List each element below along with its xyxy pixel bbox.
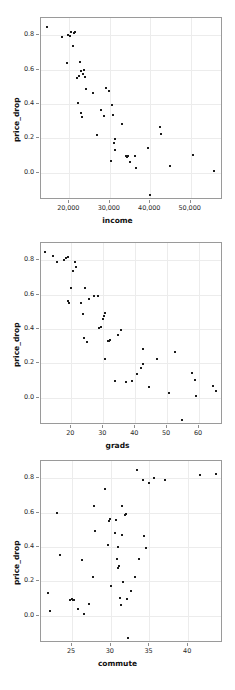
data-point [121,534,123,536]
data-point [130,590,132,592]
data-point [68,302,70,304]
data-point [117,334,119,336]
data-point [127,155,129,157]
data-point [174,351,176,353]
data-point [114,149,116,151]
x-axis-tick-label: 50,000 [179,204,201,212]
data-point [104,358,106,360]
data-point [142,479,144,481]
data-point [103,115,105,117]
data-point [103,315,105,317]
data-point [131,380,133,382]
x-axis-tick [149,200,150,203]
gridline-horizontal [41,581,221,582]
data-point [74,261,76,263]
gridline-horizontal [41,616,221,617]
data-point [215,473,217,475]
data-point [80,112,82,114]
gridline-horizontal [41,295,221,296]
data-point [96,134,98,136]
gridline-horizontal [41,363,221,364]
gridline-vertical [135,243,136,423]
data-point [74,31,76,33]
x-axis-tick [68,200,69,203]
data-point [122,581,124,583]
data-point [80,70,82,72]
data-point [114,380,116,382]
data-point [72,45,74,47]
data-point [119,597,121,599]
data-point [83,613,85,615]
data-point [49,610,51,612]
data-point [147,147,149,149]
gridline-horizontal [41,329,221,330]
data-point [88,298,90,300]
gridline-horizontal [41,260,221,261]
data-point [110,160,112,162]
x-axis-tick [71,643,72,646]
data-point [69,35,71,37]
data-point [56,261,58,263]
data-point [77,608,79,610]
y-axis-tick [36,477,39,478]
data-point [108,520,110,522]
x-axis-tick-label: 30,000 [98,204,120,212]
y-axis-tick [36,615,39,616]
data-point [125,513,127,515]
data-point [120,329,122,331]
data-point [94,530,96,532]
data-point [75,266,77,268]
data-point [192,154,194,156]
x-axis-tick-label: 40 [130,429,138,437]
data-point [61,36,63,38]
data-point [84,287,86,289]
y-axis-tick [36,512,39,513]
data-point [142,363,144,365]
gridline-vertical [149,461,150,641]
gridline-horizontal [41,478,221,479]
gridline-vertical [72,461,73,641]
data-point [129,161,131,163]
scatter-panel-grads: price_drop grads 20304050600.00.20.40.60… [0,230,235,455]
plot-area-income [40,17,222,199]
data-point [148,386,150,388]
x-axis-tick [134,425,135,428]
y-axis-tick-label: 0.6 [14,65,34,73]
data-point [70,31,72,33]
data-point [82,73,84,75]
data-point [56,512,58,514]
data-point [93,505,95,507]
data-point [191,372,193,374]
gridline-vertical [110,18,111,198]
data-point [135,167,137,169]
data-point [83,69,85,71]
y-axis-tick-label: 0.6 [14,290,34,298]
data-point [81,116,83,118]
data-point [104,312,106,314]
data-point [117,567,119,569]
data-point [117,546,119,548]
data-point [107,544,109,546]
x-axis-tick [109,200,110,203]
data-point [83,337,85,339]
x-axis-tick [110,643,111,646]
data-point [111,104,113,106]
data-point [108,90,110,92]
data-point [47,592,49,594]
data-point [121,123,123,125]
x-axis-tick-label: 35 [144,647,152,655]
data-point [136,373,138,375]
gridline-vertical [188,461,189,641]
data-point [215,390,217,392]
gridline-vertical [103,243,104,423]
data-point [52,255,54,257]
data-point [104,488,106,490]
data-point [86,341,88,343]
y-axis-tick [36,137,39,138]
y-axis-tick-label: 0.4 [14,542,34,550]
x-axis-tick-label: 40,000 [138,204,160,212]
x-axis-tick-label: 60 [194,429,202,437]
y-axis-tick-label: 0.8 [14,30,34,38]
scatter-panel-income: price_drop income 20,00030,00040,00050,0… [0,0,235,230]
y-axis-tick-label: 0.8 [14,255,34,263]
